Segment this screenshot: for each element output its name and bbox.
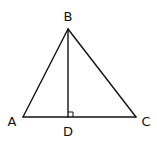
label-a: A: [8, 114, 17, 129]
label-c: C: [141, 114, 150, 129]
segment-ab: [23, 29, 68, 117]
segment-bc: [68, 29, 136, 117]
triangle-diagram: A B C D: [0, 0, 157, 143]
label-b: B: [64, 9, 73, 24]
right-angle-marker-icon: [68, 112, 73, 117]
label-d: D: [63, 124, 73, 139]
